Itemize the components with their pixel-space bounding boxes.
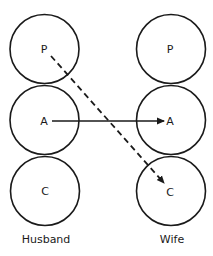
husband-caption: Husband — [22, 233, 71, 246]
husband-parent-label: P — [41, 43, 48, 56]
transaction-diagram — [0, 0, 213, 256]
wife-child-label: C — [166, 186, 174, 199]
husband-adult-label: A — [40, 115, 48, 128]
dashed-transaction-arrow — [51, 56, 164, 183]
wife-parent-label: P — [167, 43, 174, 56]
husband-child-label: C — [41, 185, 49, 198]
wife-adult-label: A — [166, 115, 174, 128]
wife-caption: Wife — [160, 233, 184, 246]
